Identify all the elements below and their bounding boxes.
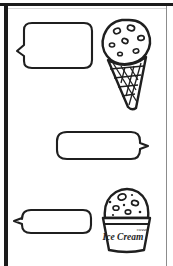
page-frame-top-rule (0, 3, 173, 6)
page-frame-right-edge (166, 6, 167, 266)
speech-bubble-middle-right[interactable] (53, 128, 151, 162)
ice-cream-cone-illustration (96, 16, 158, 112)
speech-bubble-bottom-left[interactable] (10, 206, 98, 236)
comic-page: Ice Cream sweet (0, 0, 173, 266)
page-frame-inner-rule (8, 8, 166, 9)
ice-cream-cup-illustration: Ice Cream sweet (96, 186, 158, 254)
cup-label-text: Ice Cream (102, 232, 144, 242)
page-frame-spine (4, 3, 8, 266)
speech-bubble-outline (17, 23, 92, 68)
cup-label-small-text: sweet (136, 227, 148, 232)
speech-bubble-outline (14, 210, 91, 233)
speech-bubble-top-left[interactable] (10, 20, 100, 74)
speech-bubble-outline (57, 132, 148, 159)
